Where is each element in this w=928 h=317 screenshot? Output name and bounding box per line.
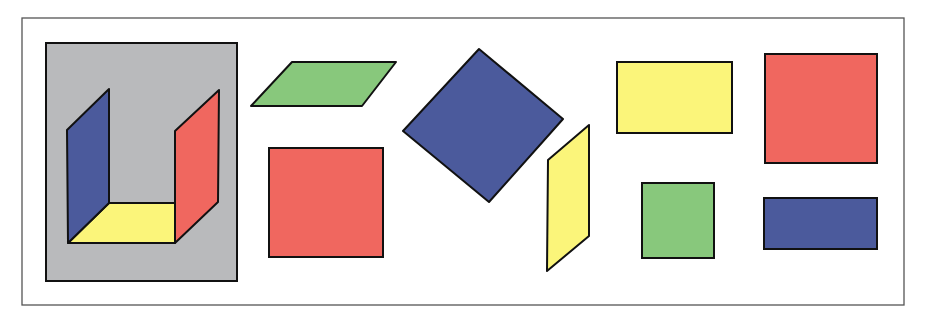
blue-rectangle xyxy=(764,198,877,249)
red-large-square xyxy=(765,54,877,163)
figure-canvas xyxy=(0,0,928,317)
red-square xyxy=(269,148,383,257)
open-box-panel xyxy=(46,43,237,281)
green-small-square xyxy=(642,183,714,258)
yellow-rectangle xyxy=(617,62,732,133)
